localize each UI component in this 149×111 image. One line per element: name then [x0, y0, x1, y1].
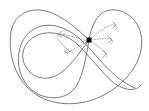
crossing-point-marker [87, 38, 92, 43]
curve-diagram-svg [0, 0, 149, 111]
figure-container [0, 0, 149, 111]
